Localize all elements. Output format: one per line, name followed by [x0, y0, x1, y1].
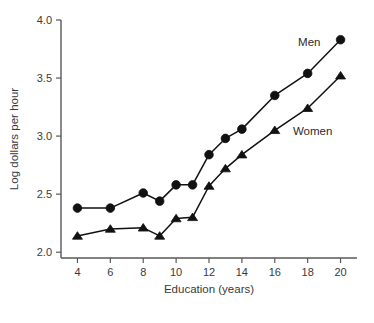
series-label-women: Women — [293, 125, 332, 137]
x-tick-label: 10 — [170, 266, 182, 278]
data-point-men — [106, 204, 115, 213]
series-paths — [77, 40, 340, 236]
data-point-men — [238, 125, 247, 134]
y-tick-label: 2.0 — [37, 246, 52, 258]
y-tick-label: 3.0 — [37, 130, 52, 142]
series-annotations: MenWomen — [293, 36, 332, 137]
series-label-men: Men — [298, 36, 320, 48]
x-tick-label: 8 — [140, 266, 146, 278]
data-point-men — [155, 197, 164, 206]
x-tick-label: 14 — [236, 266, 248, 278]
x-tick-label: 16 — [269, 266, 281, 278]
data-point-men — [73, 204, 82, 213]
x-axis-title: Education (years) — [164, 283, 254, 295]
data-point-men — [172, 181, 181, 190]
data-point-men — [221, 134, 230, 143]
y-tick-label: 3.5 — [37, 72, 52, 84]
y-tick-label: 4.0 — [37, 14, 52, 26]
data-point-men — [303, 69, 312, 78]
data-point-men — [205, 150, 214, 159]
y-axis-title: Log dollars per hour — [8, 88, 20, 190]
data-point-men — [188, 181, 197, 190]
x-tick-label: 20 — [334, 266, 346, 278]
data-point-men — [139, 189, 148, 198]
line-chart: 2.02.53.03.54.0 468101214161820 MenWomen… — [0, 0, 374, 323]
x-tick-label: 18 — [302, 266, 314, 278]
data-point-men — [270, 91, 279, 100]
x-tick-label: 4 — [74, 266, 80, 278]
data-point-men — [336, 35, 345, 44]
x-tick-label: 12 — [203, 266, 215, 278]
series-markers — [72, 35, 345, 239]
data-point-women — [336, 71, 346, 79]
x-axis-ticks: 468101214161820 — [74, 258, 346, 278]
x-tick-label: 6 — [107, 266, 113, 278]
chart-page: 2.02.53.03.54.0 468101214161820 MenWomen… — [0, 0, 374, 323]
y-axis-ticks: 2.02.53.03.54.0 — [37, 14, 61, 258]
y-tick-label: 2.5 — [37, 188, 52, 200]
